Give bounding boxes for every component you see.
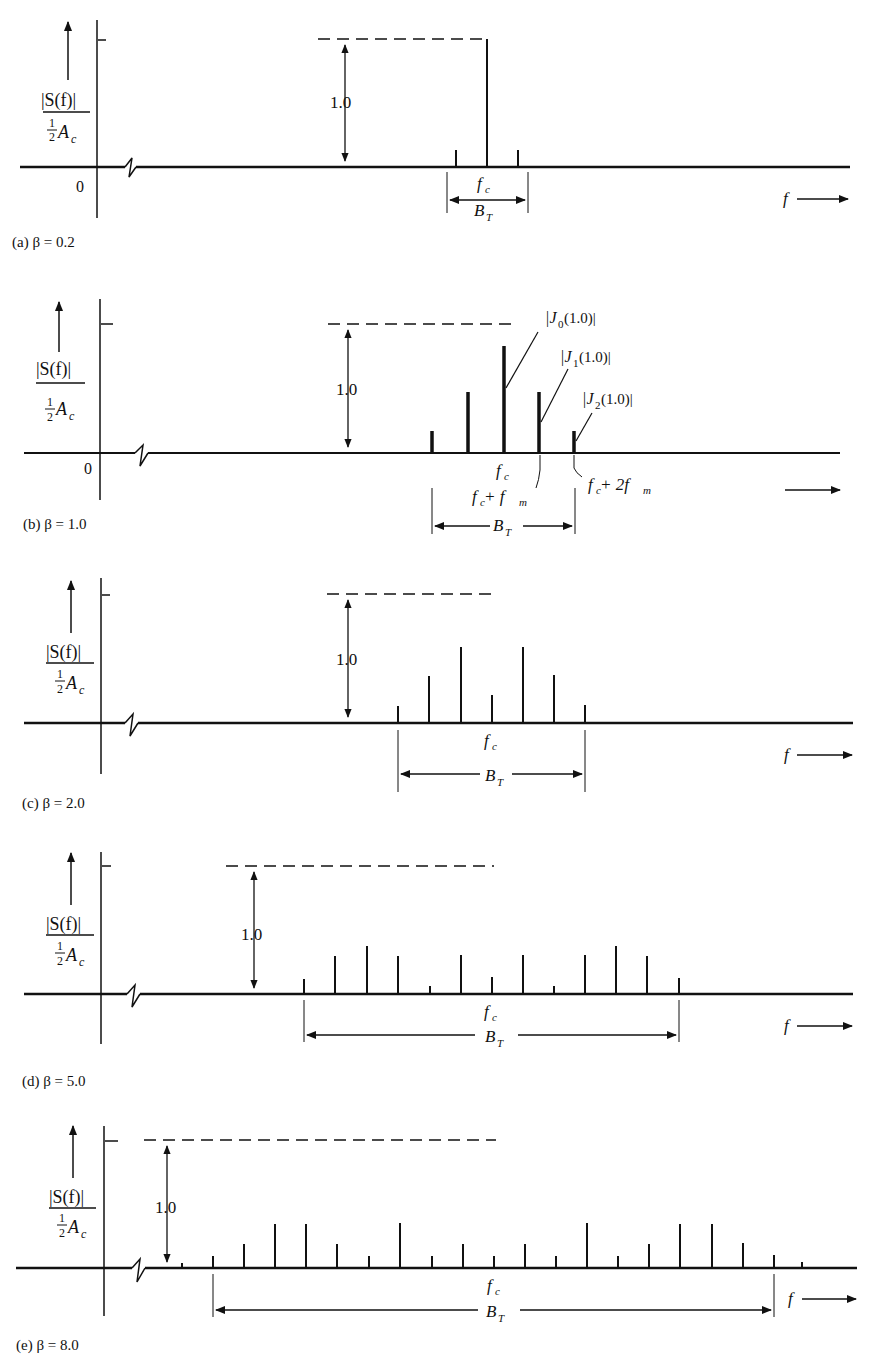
svg-text:+ 2f: + 2f [600,475,631,494]
svg-text:1: 1 [57,667,63,681]
x-axis-label: f [783,189,790,208]
svg-text:m: m [643,484,651,496]
leader-line [536,455,540,488]
fc-label: f [496,461,503,480]
bt-label: B [485,766,496,785]
y-axis-label: |S(f)| 1 2 A c [46,914,94,969]
leader-line [506,332,538,388]
fc-plus-2fm-label: f c + 2f m [588,475,651,496]
reference-label: 1.0 [155,1198,176,1217]
svg-text:|S(f)|: |S(f)| [46,642,81,663]
svg-text:|J: |J [545,309,557,327]
svg-text:T: T [497,776,504,788]
axis-break-icon [127,985,140,1007]
svg-text:T: T [497,1037,504,1049]
svg-text:1: 1 [47,395,53,409]
x-axis-label: f [784,1016,791,1035]
fc-label: f [484,731,491,750]
svg-text:c: c [495,1285,500,1297]
svg-text:c: c [79,955,85,969]
svg-text:T: T [505,526,512,538]
y-axis-label: |S(f)| 1 2 A c [41,90,90,146]
leader-line [574,455,582,477]
spectral-lines-e [182,1223,802,1268]
j2-annotation: |J 2 (1.0)| [582,390,633,411]
svg-text:f: f [588,475,595,494]
fc-label: f [487,1276,494,1295]
svg-text:|J: |J [582,390,594,408]
panel-e [16,1126,857,1317]
svg-text:|S(f)|: |S(f)| [36,359,71,380]
spectral-lines-d [304,946,679,994]
svg-text:c: c [504,470,509,482]
leader-line [576,413,592,441]
y-axis-label: |S(f)| 1 2 A c [49,1187,96,1241]
svg-text:2: 2 [595,399,601,411]
svg-text:|J: |J [560,348,572,366]
svg-text:A: A [57,122,70,142]
svg-text:f: f [472,487,479,506]
panel-c [24,578,853,792]
svg-text:c: c [485,183,490,195]
y-axis-label: |S(f)| 1 2 A c [36,359,85,424]
svg-text:A: A [65,673,78,693]
svg-text:m: m [519,496,527,508]
fc-plus-fm-label: f c + f m [472,487,527,508]
svg-text:T: T [486,211,493,223]
svg-text:|S(f)|: |S(f)| [46,914,81,935]
panel-d [24,852,853,1044]
bt-label: B [474,201,485,220]
svg-text:1: 1 [59,1211,65,1225]
j0-annotation: |J 0 (1.0)| [545,309,596,330]
caption-c: (c) β = 2.0 [22,795,85,812]
reference-label: 1.0 [336,380,357,399]
leader-line [541,369,568,422]
svg-text:1: 1 [49,116,55,130]
svg-text:1: 1 [57,939,63,953]
panel-b [24,299,840,534]
axis-break-icon [125,158,136,177]
x-axis-label: f [788,1289,795,1308]
svg-text:|S(f)|: |S(f)| [49,1187,84,1208]
svg-text:1: 1 [573,357,579,369]
svg-text:A: A [67,1217,80,1237]
j1-annotation: |J 1 (1.0)| [560,348,611,369]
reference-label: 1.0 [241,925,262,944]
y-axis-label: |S(f)| 1 2 A c [46,642,94,697]
panel-a [20,20,850,218]
bt-label: B [493,516,504,535]
svg-text:A: A [55,399,68,419]
zero-label: 0 [84,460,92,477]
svg-text:A: A [65,945,78,965]
svg-text:(1.0)|: (1.0)| [579,349,611,366]
svg-text:c: c [492,1011,497,1023]
fc-label: f [477,174,484,193]
axis-break-icon [125,714,138,736]
svg-text:(1.0)|: (1.0)| [601,391,633,408]
svg-text:2: 2 [47,410,53,424]
svg-text:|S(f)|: |S(f)| [41,90,76,111]
svg-text:c: c [492,740,497,752]
reference-label: 1.0 [336,650,357,669]
x-axis-label: f [784,745,791,764]
svg-text:c: c [79,683,85,697]
fm-spectra-figure: |S(f)| 1 2 A c 0 1.0 f c B T f (a) β = 0… [0,0,873,1365]
svg-text:c: c [69,409,75,423]
svg-text:2: 2 [57,682,63,696]
bt-label: B [485,1027,496,1046]
svg-text:T: T [498,1312,505,1324]
fc-label: f [484,1002,491,1021]
svg-text:2: 2 [49,130,55,144]
caption-e: (e) β = 8.0 [16,1337,79,1354]
bt-label: B [486,1302,497,1321]
svg-text:2: 2 [57,954,63,968]
axis-break-icon [135,445,148,466]
zero-label: 0 [76,178,84,195]
svg-text:(1.0)|: (1.0)| [564,310,596,327]
svg-text:c: c [71,132,77,146]
caption-b: (b) β = 1.0 [23,516,87,533]
caption-a: (a) β = 0.2 [12,234,75,251]
reference-label: 1.0 [330,93,351,112]
svg-text:+ f: + f [484,487,507,506]
axis-break-icon [132,1259,145,1282]
